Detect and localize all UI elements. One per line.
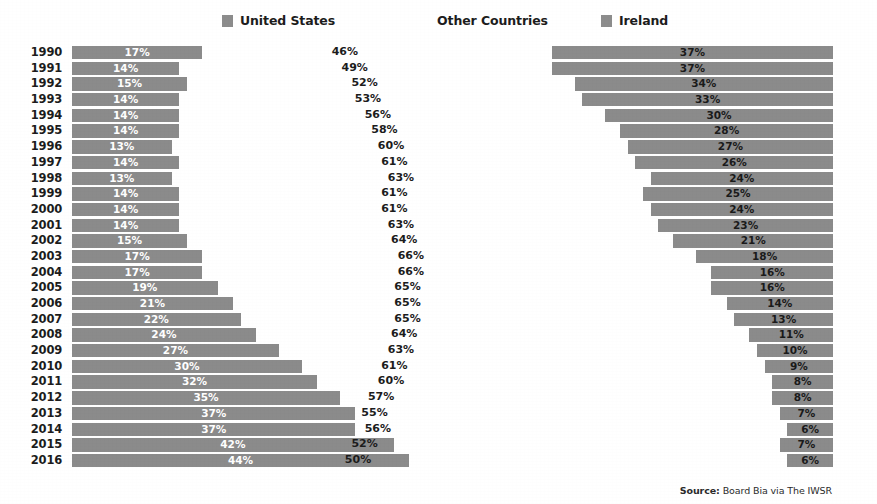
bar-value-ireland: 13% xyxy=(734,313,833,326)
bar-ireland[interactable]: 25% xyxy=(643,187,833,200)
bar-ireland[interactable]: 37% xyxy=(552,62,833,75)
bar-ireland[interactable]: 24% xyxy=(651,172,833,185)
legend-item-other-countries[interactable]: Other Countries xyxy=(430,13,548,28)
year-label: 1999 xyxy=(0,186,62,202)
chart-row: 201132%60%8% xyxy=(0,374,877,390)
value-other-countries: 61% xyxy=(378,155,408,171)
bar-ireland[interactable]: 6% xyxy=(787,423,833,436)
bar-united-states[interactable]: 14% xyxy=(72,187,179,200)
bar-value-united-states: 37% xyxy=(72,423,355,436)
bar-united-states[interactable]: 27% xyxy=(72,344,279,357)
bar-united-states[interactable]: 24% xyxy=(72,328,256,341)
chart-row: 200114%63%23% xyxy=(0,218,877,234)
value-other-countries: 66% xyxy=(394,249,424,265)
value-other-countries: 56% xyxy=(361,108,391,124)
bar-united-states[interactable]: 17% xyxy=(72,250,202,263)
bar-united-states[interactable]: 14% xyxy=(72,156,179,169)
legend-item-ireland[interactable]: Ireland xyxy=(601,13,668,28)
bar-value-ireland: 6% xyxy=(787,423,833,436)
bar-united-states[interactable]: 35% xyxy=(72,391,340,404)
bar-value-ireland: 37% xyxy=(552,62,833,75)
value-other-countries: 64% xyxy=(387,233,417,249)
legend-item-united-states[interactable]: United States xyxy=(222,13,335,28)
bar-ireland[interactable]: 28% xyxy=(620,124,833,137)
bar-value-ireland: 28% xyxy=(620,124,833,137)
bar-value-ireland: 18% xyxy=(696,250,833,263)
chart-row: 199017%46%37% xyxy=(0,45,877,61)
bar-ireland[interactable]: 7% xyxy=(780,407,833,420)
legend-swatch-icon-united-states xyxy=(222,15,233,27)
year-label: 2003 xyxy=(0,249,62,265)
legend-label-other-countries: Other Countries xyxy=(437,13,548,28)
bar-ireland[interactable]: 7% xyxy=(780,438,833,451)
bar-value-united-states: 35% xyxy=(72,391,340,404)
chart-row: 200519%65%16% xyxy=(0,280,877,296)
bar-ireland[interactable]: 30% xyxy=(605,109,833,122)
bar-ireland[interactable]: 18% xyxy=(696,250,833,263)
chart-row: 200722%65%13% xyxy=(0,312,877,328)
chart-row: 201030%61%9% xyxy=(0,359,877,375)
bar-united-states[interactable]: 14% xyxy=(72,219,179,232)
bar-ireland[interactable]: 8% xyxy=(772,375,833,388)
bar-value-united-states: 13% xyxy=(72,172,172,185)
bar-ireland[interactable]: 11% xyxy=(749,328,833,341)
bar-value-united-states: 19% xyxy=(72,281,218,294)
chart-row: 200014%61%24% xyxy=(0,202,877,218)
bar-ireland[interactable]: 13% xyxy=(734,313,833,326)
value-other-countries: 66% xyxy=(394,265,424,281)
value-other-countries: 50% xyxy=(341,453,371,469)
bar-value-ireland: 24% xyxy=(651,203,833,216)
bar-united-states[interactable]: 42% xyxy=(72,438,394,451)
bar-ireland[interactable]: 14% xyxy=(727,297,833,310)
bar-united-states[interactable]: 37% xyxy=(72,423,355,436)
bar-ireland[interactable]: 23% xyxy=(658,219,833,232)
chart-row: 201235%57%8% xyxy=(0,390,877,406)
bar-ireland[interactable]: 8% xyxy=(772,391,833,404)
legend-swatch-icon-ireland xyxy=(601,15,612,27)
value-other-countries: 55% xyxy=(358,406,388,422)
bar-value-united-states: 24% xyxy=(72,328,256,341)
year-label: 2014 xyxy=(0,422,62,438)
bar-united-states[interactable]: 15% xyxy=(72,234,187,247)
bar-united-states[interactable]: 15% xyxy=(72,77,187,90)
bar-united-states[interactable]: 32% xyxy=(72,375,317,388)
bar-ireland[interactable]: 27% xyxy=(628,140,833,153)
bar-ireland[interactable]: 26% xyxy=(635,156,833,169)
bar-ireland[interactable]: 10% xyxy=(757,344,833,357)
chart-row: 200317%66%18% xyxy=(0,249,877,265)
bar-united-states[interactable]: 21% xyxy=(72,297,233,310)
bar-united-states[interactable]: 14% xyxy=(72,203,179,216)
year-label: 2008 xyxy=(0,327,62,343)
bar-value-ireland: 37% xyxy=(552,46,833,59)
bar-united-states[interactable]: 19% xyxy=(72,281,218,294)
bar-ireland[interactable]: 34% xyxy=(575,77,833,90)
bar-united-states[interactable]: 14% xyxy=(72,93,179,106)
bar-united-states[interactable]: 37% xyxy=(72,407,355,420)
bar-united-states[interactable]: 14% xyxy=(72,62,179,75)
chart-row: 201644%50%6% xyxy=(0,453,877,469)
bar-united-states[interactable]: 14% xyxy=(72,109,179,122)
chart-row: 200927%63%10% xyxy=(0,343,877,359)
bar-ireland[interactable]: 21% xyxy=(673,234,833,247)
year-label: 1991 xyxy=(0,61,62,77)
value-other-countries: 49% xyxy=(338,61,368,77)
legend-label-ireland: Ireland xyxy=(619,13,668,28)
bar-ireland[interactable]: 24% xyxy=(651,203,833,216)
bar-united-states[interactable]: 13% xyxy=(72,172,172,185)
value-other-countries: 63% xyxy=(384,218,414,234)
bar-value-united-states: 17% xyxy=(72,250,202,263)
bar-united-states[interactable]: 30% xyxy=(72,360,302,373)
bar-united-states[interactable]: 22% xyxy=(72,313,241,326)
bar-ireland[interactable]: 37% xyxy=(552,46,833,59)
year-label: 1993 xyxy=(0,92,62,108)
chart-row: 200824%64%11% xyxy=(0,327,877,343)
bar-ireland[interactable]: 16% xyxy=(711,281,833,294)
bar-ireland[interactable]: 9% xyxy=(765,360,833,373)
bar-united-states[interactable]: 17% xyxy=(72,46,202,59)
bar-united-states[interactable]: 13% xyxy=(72,140,172,153)
bar-ireland[interactable]: 6% xyxy=(787,454,833,467)
bar-united-states[interactable]: 17% xyxy=(72,266,202,279)
bar-ireland[interactable]: 33% xyxy=(582,93,833,106)
bar-united-states[interactable]: 14% xyxy=(72,124,179,137)
bar-ireland[interactable]: 16% xyxy=(711,266,833,279)
